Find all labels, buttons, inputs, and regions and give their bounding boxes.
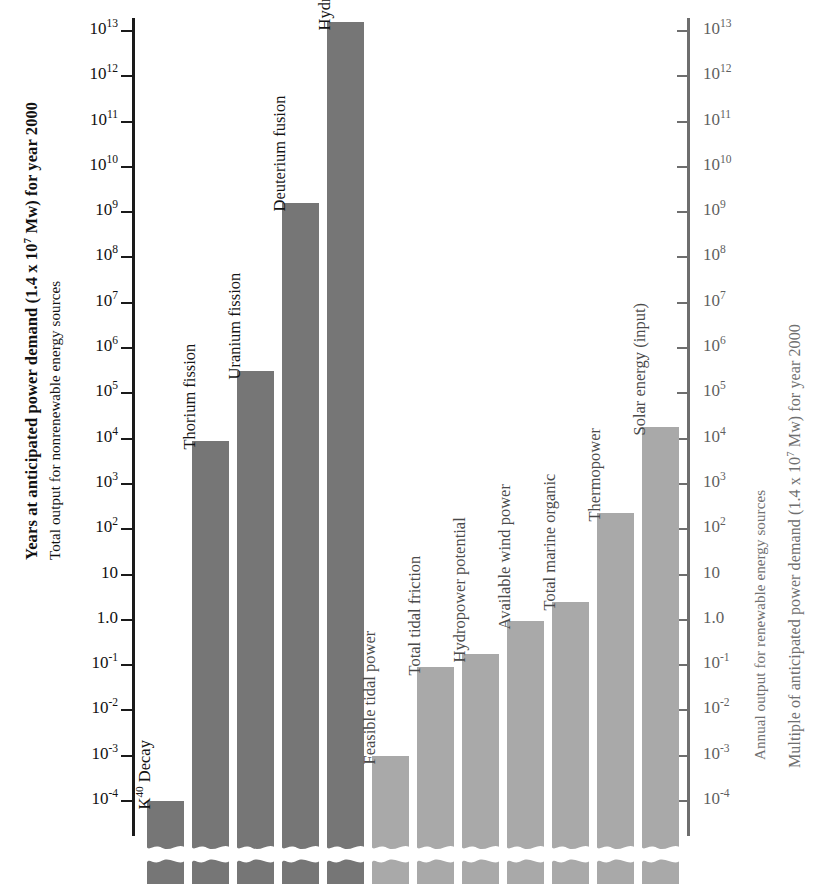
bar-break-bottom-1 [192, 856, 229, 870]
bar-break-top-11 [642, 839, 679, 853]
left-tick-13 [121, 619, 135, 621]
right-tick-label-6: 107 [703, 292, 726, 309]
left-tick-3 [121, 166, 135, 168]
bar-4[interactable] [327, 22, 364, 839]
chart-figure: Years at anticipated power demand (1.4 x… [0, 0, 824, 886]
bar-break-top-4 [327, 839, 364, 853]
right-axis-outer-title-pre: Multiple of anticipated power demand (1.… [786, 457, 803, 768]
bar-break-top-5 [372, 839, 409, 853]
bar-break-top-2 [237, 839, 274, 853]
bar-6[interactable] [417, 667, 454, 839]
left-tick-label-15: 10-2 [60, 699, 118, 716]
bar-stub-2 [237, 869, 274, 884]
bar-break-bottom-2 [237, 856, 274, 870]
bar-label-3: Deuterium fusion [272, 96, 289, 212]
bar-break-bottom-3 [282, 856, 319, 870]
right-axis-outer-title: Multiple of anticipated power demand (1.… [786, 324, 804, 768]
bar-label-1: Thorium fission [182, 344, 199, 450]
left-tick-label-7: 106 [60, 337, 118, 354]
bar-stub-5 [372, 869, 409, 884]
left-tick-8 [121, 392, 135, 394]
left-tick-11 [121, 528, 135, 530]
bar-break-bottom-11 [642, 856, 679, 870]
left-tick-7 [121, 347, 135, 349]
left-axis-outer-title-pre: Years at anticipated power demand (1.4 x… [22, 243, 41, 560]
left-tick-label-6: 107 [60, 292, 118, 309]
left-axis-outer-title: Years at anticipated power demand (1.4 x… [22, 102, 42, 560]
left-tick-label-11: 102 [60, 518, 118, 535]
left-tick-10 [121, 483, 135, 485]
bar-break-bottom-9 [552, 856, 589, 870]
bar-label-8: Available wind power [497, 484, 514, 629]
right-axis-outer-title-sup: 7 [784, 451, 796, 457]
left-tick-16 [121, 755, 135, 757]
bar-3[interactable] [282, 203, 319, 839]
bar-break-top-3 [282, 839, 319, 853]
bar-9[interactable] [552, 602, 589, 839]
bar-label-5: Feasible tidal power [362, 630, 379, 764]
right-tick-label-1: 1012 [703, 65, 732, 82]
bar-stub-1 [192, 869, 229, 884]
right-tick-label-16: 10-3 [703, 745, 730, 762]
left-tick-label-5: 108 [60, 246, 118, 263]
left-tick-label-1: 1012 [60, 65, 118, 82]
bar-label-11: Solar energy (input) [632, 303, 649, 436]
right-axis-line [687, 18, 690, 836]
bar-11[interactable] [642, 427, 679, 839]
bar-stub-10 [597, 869, 634, 884]
left-axis-outer-title-sup: 7 [21, 238, 33, 244]
left-tick-label-10: 103 [60, 473, 118, 490]
bar-10[interactable] [597, 513, 634, 839]
bar-stub-7 [462, 869, 499, 884]
bar-break-bottom-0 [147, 856, 184, 870]
left-tick-14 [121, 664, 135, 666]
right-tick-label-15: 10-2 [703, 699, 730, 716]
right-tick-label-12: 10 [703, 564, 720, 581]
left-tick-2 [121, 121, 135, 123]
right-tick-label-0: 1013 [703, 20, 732, 37]
right-axis-outer-title-post: Mw) for year 2000 [786, 324, 803, 451]
bar-break-top-8 [507, 839, 544, 853]
left-tick-label-13: 1.0 [60, 609, 118, 626]
right-tick-label-14: 10-1 [703, 654, 730, 671]
left-tick-label-12: 10 [60, 564, 118, 581]
left-tick-17 [121, 800, 135, 802]
right-tick-label-8: 105 [703, 382, 726, 399]
right-tick-label-5: 108 [703, 246, 726, 263]
bar-break-top-0 [147, 839, 184, 853]
bar-label-7: Hydropower potential [452, 517, 469, 662]
right-tick-label-11: 102 [703, 518, 726, 535]
left-tick-label-0: 1013 [60, 20, 118, 37]
bar-label-9: Total marine organic [542, 473, 559, 610]
bar-break-bottom-10 [597, 856, 634, 870]
left-tick-label-16: 10-3 [60, 745, 118, 762]
right-tick-label-13: 1.0 [703, 609, 724, 626]
left-tick-15 [121, 709, 135, 711]
bar-1[interactable] [192, 441, 229, 839]
bar-5[interactable] [372, 756, 409, 839]
bar-stub-6 [417, 869, 454, 884]
right-tick-label-2: 1011 [703, 111, 731, 128]
bar-label-10: Thermopower [587, 428, 604, 521]
bar-2[interactable] [237, 371, 274, 839]
left-tick-label-14: 10-1 [60, 654, 118, 671]
right-tick-label-9: 104 [703, 428, 726, 445]
left-tick-1 [121, 75, 135, 77]
bar-break-top-6 [417, 839, 454, 853]
left-tick-5 [121, 256, 135, 258]
bar-label-4: Hydrogen fusion [317, 0, 334, 30]
bar-break-bottom-6 [417, 856, 454, 870]
right-axis-inner-title: Annual output for renewable energy sourc… [752, 490, 769, 760]
left-tick-label-3: 1010 [60, 156, 118, 173]
bar-stub-9 [552, 869, 589, 884]
left-tick-label-4: 109 [60, 201, 118, 218]
left-tick-label-9: 104 [60, 428, 118, 445]
bar-7[interactable] [462, 654, 499, 839]
bar-break-top-7 [462, 839, 499, 853]
bar-stub-8 [507, 869, 544, 884]
bar-stub-4 [327, 869, 364, 884]
left-tick-12 [121, 574, 135, 576]
right-tick-label-3: 1010 [703, 156, 732, 173]
bar-break-bottom-7 [462, 856, 499, 870]
bar-8[interactable] [507, 621, 544, 839]
